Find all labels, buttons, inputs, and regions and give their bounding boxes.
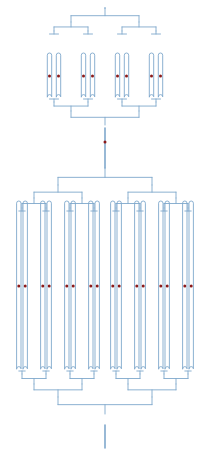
upper-module-node-1: [57, 75, 60, 78]
figure-root: [0, 0, 212, 453]
lower-module-node-0: [17, 285, 20, 288]
lower-module-node-12: [159, 285, 162, 288]
upper-module-node-5: [125, 75, 128, 78]
upper-module-node-3: [91, 75, 94, 78]
upper-module-node-6: [150, 75, 153, 78]
lower-module-node-9: [118, 285, 121, 288]
diagram-background: [0, 0, 212, 453]
lower-module-node-3: [48, 285, 51, 288]
lower-module-node-8: [111, 285, 114, 288]
lower-module-node-15: [190, 285, 193, 288]
lower-module-node-6: [89, 285, 92, 288]
trunk-mid-node: [104, 141, 107, 144]
lower-module-node-7: [96, 285, 99, 288]
upper-module-node-7: [159, 75, 162, 78]
lower-module-node-13: [166, 285, 169, 288]
bifurcation-network-diagram: [0, 0, 212, 453]
lower-module-node-4: [65, 285, 68, 288]
lower-module-node-5: [72, 285, 75, 288]
lower-module-node-1: [24, 285, 27, 288]
lower-module-node-11: [142, 285, 145, 288]
upper-module-node-4: [116, 75, 119, 78]
upper-module-node-2: [82, 75, 85, 78]
lower-module-node-2: [41, 285, 44, 288]
upper-module-node-0: [48, 75, 51, 78]
lower-module-node-10: [135, 285, 138, 288]
lower-module-node-14: [183, 285, 186, 288]
